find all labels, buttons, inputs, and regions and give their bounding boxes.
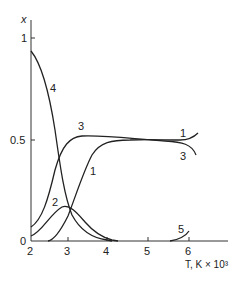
curve-label-3-right: 3 xyxy=(180,150,186,162)
x-tick-label-6: 6 xyxy=(185,245,191,257)
curve-label-1-right: 1 xyxy=(180,127,186,139)
y-tick-label-1: 1 xyxy=(21,32,27,44)
curve-label-4: 4 xyxy=(50,82,56,94)
curve-label-1: 1 xyxy=(90,165,96,177)
curve-1 xyxy=(48,133,198,241)
y-tick-label-0: 0 xyxy=(20,235,26,247)
x-tick-label-4: 4 xyxy=(103,245,109,257)
curve-label-5: 5 xyxy=(178,223,184,235)
x-axis-label: T, K × 10³ xyxy=(185,259,229,270)
y-tick-label-0-5: 0.5 xyxy=(10,134,25,146)
line-chart: x T, K × 10³ 1 0.5 0 2 3 4 5 6 4 3 1 3 1… xyxy=(0,0,240,282)
x-tick-label-2: 2 xyxy=(27,245,33,257)
x-tick-label-5: 5 xyxy=(144,245,150,257)
curve-label-3-top: 3 xyxy=(78,120,84,132)
x-tick-label-3: 3 xyxy=(64,245,70,257)
curve-label-2: 2 xyxy=(52,196,58,208)
curve-2 xyxy=(31,206,118,241)
y-axis-label: x xyxy=(20,13,27,25)
curve-3 xyxy=(31,136,196,227)
